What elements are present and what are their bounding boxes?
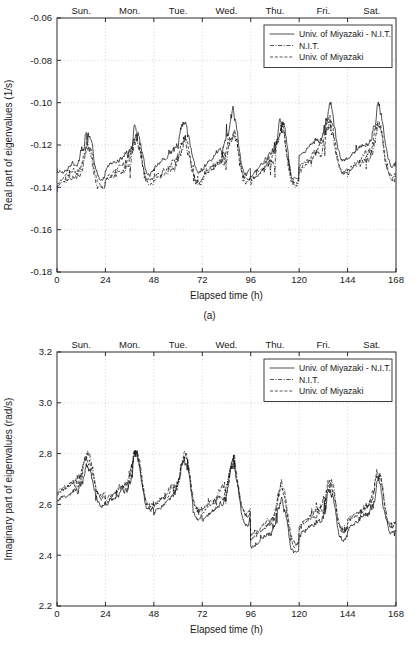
y-tick-label: 2.6 [39,499,52,510]
x-tick-label: 72 [197,274,208,285]
x-tick-label: 0 [54,608,59,619]
x-tick-label: 0 [54,274,59,285]
x-tick-label: 168 [388,274,404,285]
x-tick-label: 72 [197,608,208,619]
x-tick-label: 168 [388,608,404,619]
y-tick-label: 2.2 [39,600,52,611]
day-label: Sat. [363,5,380,16]
day-label: Thu. [265,5,284,16]
y-tick-label: -0.12 [30,139,52,150]
chart-svg-b: 0244872961201441682.22.42.62.83.03.2Sun.… [0,330,419,642]
x-tick-label: 24 [100,608,111,619]
day-label: Mon. [119,5,140,16]
y-tick-label: 3.2 [39,346,52,357]
x-tick-label: 96 [245,608,256,619]
x-tick-label: 120 [291,608,307,619]
y-tick-label: 2.8 [39,448,52,459]
x-axis-title: Elapsed time (h) [190,624,263,635]
panel-caption-a: (a) [0,310,419,321]
x-tick-label: 48 [149,608,160,619]
y-tick-label: -0.16 [30,224,52,235]
chart-legend: Univ. of Miyazaki - N.I.T.N.I.T.Univ. of… [264,359,392,402]
y-tick-label: -0.06 [30,12,52,23]
day-label: Mon. [119,339,140,350]
legend-label: Univ. of Miyazaki [299,52,363,62]
day-label: Fri. [316,339,330,350]
plot-area-a: 024487296120144168-0.06-0.08-0.10-0.12-0… [0,0,419,330]
day-label: Tue. [169,339,188,350]
chart-legend: Univ. of Miyazaki - N.I.T.N.I.T.Univ. of… [264,25,392,68]
legend-label: Univ. of Miyazaki - N.I.T. [299,363,391,373]
series-group [57,450,396,553]
x-axis-title: Elapsed time (h) [190,290,263,301]
chart-panel-b: 0244872961201441682.22.42.62.83.03.2Sun.… [0,330,419,667]
figure-container: 024487296120144168-0.06-0.08-0.10-0.12-0… [0,0,419,667]
day-label: Fri. [316,5,330,16]
chart-panel-a: 024487296120144168-0.06-0.08-0.10-0.12-0… [0,0,419,330]
x-tick-label: 144 [340,274,356,285]
chart-svg-a: 024487296120144168-0.06-0.08-0.10-0.12-0… [0,0,419,305]
series-group [57,102,396,192]
plot-area-b: 0244872961201441682.22.42.62.83.03.2Sun.… [0,330,419,667]
y-axis-title: Real part of eigenvalues (1/s) [3,80,14,211]
y-tick-label: -0.10 [30,97,52,108]
y-tick-label: 2.4 [39,550,52,561]
day-label: Wed. [215,339,237,350]
day-label: Tue. [169,5,188,16]
day-label: Wed. [215,5,237,16]
y-tick-label: -0.18 [30,266,52,277]
day-label: Sat. [363,339,380,350]
y-tick-label: -0.08 [30,55,52,66]
legend-label: N.I.T. [299,41,319,51]
x-tick-label: 96 [245,274,256,285]
x-tick-label: 120 [291,274,307,285]
day-label: Sun. [71,5,91,16]
day-label: Thu. [265,339,284,350]
day-label: Sun. [71,339,91,350]
series-line [57,102,396,180]
legend-label: N.I.T. [299,375,319,385]
x-tick-label: 24 [100,274,111,285]
legend-label: Univ. of Miyazaki - N.I.T. [299,29,391,39]
legend-label: Univ. of Miyazaki [299,386,363,396]
y-tick-label: 3.0 [39,397,52,408]
x-tick-label: 48 [149,274,160,285]
y-tick-label: -0.14 [30,182,52,193]
y-axis-title: Imaginary part of eigenvalues (rad/s) [3,398,14,561]
x-tick-label: 144 [340,608,356,619]
